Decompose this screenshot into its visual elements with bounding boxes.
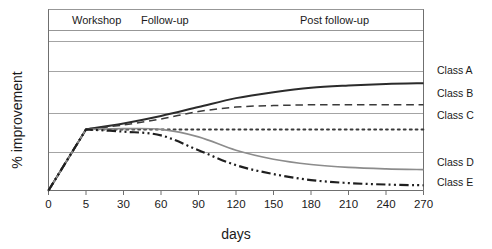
phase-band-group: WorkshopFollow-upPost follow-up	[49, 10, 424, 31]
series-label-class-d: Class D	[437, 156, 474, 168]
series-line-class-b	[49, 105, 424, 191]
phase-band-label-1: Workshop	[72, 14, 121, 26]
x-tick-label-240: 240	[376, 198, 395, 210]
x-tick-label-60: 60	[155, 198, 168, 210]
x-tick-label-150: 150	[264, 198, 283, 210]
series-line-class-e	[49, 129, 424, 190]
x-tick-label-0: 0	[45, 198, 51, 210]
phase-band-label-3: Post follow-up	[300, 14, 369, 26]
series-line-class-c	[49, 129, 424, 190]
x-tick-label-270: 270	[414, 198, 433, 210]
series-line-class-a	[49, 83, 424, 190]
series-label-group: Class AClass BClass CClass DClass E	[437, 64, 474, 188]
x-axis-title: days	[221, 226, 251, 242]
series-line-class-d	[49, 129, 424, 191]
x-tick-label-180: 180	[301, 198, 320, 210]
x-tick-label-120: 120	[226, 198, 245, 210]
series-label-class-b: Class B	[437, 87, 473, 99]
series-group	[49, 83, 424, 190]
x-tick-label-5: 5	[83, 198, 89, 210]
series-label-class-a: Class A	[437, 64, 473, 76]
phase-band-label-2: Follow-up	[141, 14, 189, 26]
x-tick-label-30: 30	[117, 198, 130, 210]
x-tick-label-210: 210	[339, 198, 358, 210]
line-chart: WorkshopFollow-upPost follow-up 05306090…	[0, 0, 492, 249]
chart-container: WorkshopFollow-upPost follow-up 05306090…	[0, 0, 492, 249]
axis-group	[49, 10, 424, 196]
series-label-class-e: Class E	[437, 176, 473, 188]
x-tick-labels-group: 05306090120150180210240270	[45, 198, 433, 210]
x-tick-label-90: 90	[192, 198, 205, 210]
gridlines-group	[49, 42, 424, 153]
series-label-class-c: Class C	[437, 109, 474, 121]
y-axis-title: % improvement	[9, 71, 25, 168]
